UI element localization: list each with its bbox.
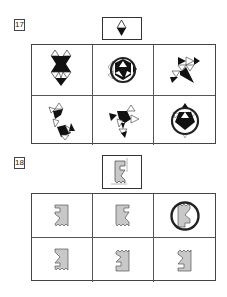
- question-18-option-5[interactable]: [93, 238, 154, 282]
- question-number-17: 17: [14, 19, 25, 31]
- question-17-option-4[interactable]: [32, 96, 93, 145]
- castle-shape-mirrored-icon: [52, 202, 72, 230]
- castle-shape-flipped-icon: [52, 246, 72, 274]
- question-18-prompt-box: [102, 155, 142, 189]
- question-18-option-1[interactable]: [32, 194, 93, 238]
- hourglass-triangles-icon: [47, 48, 77, 92]
- question-18-options-grid: [31, 193, 216, 281]
- question-18-option-6[interactable]: [154, 238, 215, 282]
- castle-shape-icon: [113, 202, 133, 230]
- pinwheel-triangles-icon: [166, 53, 204, 87]
- question-17-option-1[interactable]: [32, 45, 93, 96]
- castle-shape-upside-mirrored-icon: [175, 246, 195, 274]
- circled-triangle-hexagon-icon: [103, 53, 143, 87]
- question-number-18: 18: [14, 157, 25, 169]
- question-17-option-6[interactable]: [154, 96, 215, 145]
- question-18-option-4[interactable]: [32, 238, 93, 282]
- fish-triangles-icon: [103, 101, 143, 141]
- question-17-option-3[interactable]: [154, 45, 215, 96]
- circled-pentagon-triangles-icon: [165, 100, 205, 142]
- castle-shape-upside-icon: [113, 246, 133, 274]
- question-17-option-5[interactable]: [93, 96, 154, 145]
- question-17-options-grid: [31, 44, 216, 144]
- diamond-white-over-black-triangle-icon: [103, 18, 140, 38]
- question-18-option-2[interactable]: [93, 194, 154, 238]
- question-17-option-2[interactable]: [93, 45, 154, 96]
- castle-shape-rotated-icon: [168, 199, 202, 233]
- l-shape-triangles-icon: [45, 99, 79, 143]
- question-18-option-3[interactable]: [154, 194, 215, 238]
- question-17-prompt-box: [102, 17, 142, 40]
- castle-notch-shape-icon: [103, 156, 140, 187]
